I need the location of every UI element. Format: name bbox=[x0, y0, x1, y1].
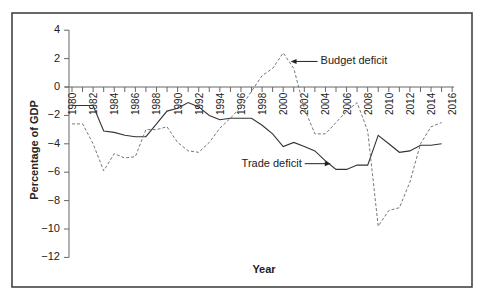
x-axis-ticks: 1980198219841986198819901992199419961998… bbox=[67, 87, 458, 115]
x-tick-label: 2014 bbox=[426, 92, 437, 115]
budget-deficit-arrowhead bbox=[291, 59, 297, 64]
x-tick-label: 1982 bbox=[88, 92, 99, 115]
x-tick-label: 2008 bbox=[363, 92, 374, 115]
axes bbox=[65, 30, 454, 257]
x-tick-label: 2012 bbox=[405, 92, 416, 115]
x-tick-label: 1996 bbox=[236, 92, 247, 115]
trade-deficit-label: Trade deficit bbox=[242, 157, 302, 169]
x-tick-label: 2000 bbox=[278, 92, 289, 115]
x-tick-label: 1994 bbox=[215, 92, 226, 115]
x-axis-title: Year bbox=[252, 263, 276, 275]
x-tick-label: 2016 bbox=[447, 92, 458, 115]
y-tick-label: −8 bbox=[47, 194, 60, 206]
x-tick-label: 1986 bbox=[130, 92, 141, 115]
x-tick-label: 1998 bbox=[257, 92, 268, 115]
x-tick-label: 2006 bbox=[342, 92, 353, 115]
chart: 420−2−4−6−8−10−12 1980198219841986198819… bbox=[0, 0, 485, 300]
x-tick-label: 2004 bbox=[320, 92, 331, 115]
x-tick-label: 1988 bbox=[151, 92, 162, 115]
y-tick-label: −2 bbox=[47, 108, 60, 120]
chart-frame bbox=[12, 13, 472, 287]
budget-deficit-label: Budget deficit bbox=[321, 54, 388, 66]
x-tick-label: 1984 bbox=[109, 92, 120, 115]
y-tick-label: −4 bbox=[47, 137, 60, 149]
y-tick-label: 2 bbox=[54, 52, 60, 64]
y-tick-label: 4 bbox=[54, 23, 60, 35]
x-tick-label: 1980 bbox=[67, 92, 78, 115]
x-tick-label: 1990 bbox=[173, 92, 184, 115]
y-axis-title: Percentage of GDP bbox=[28, 100, 40, 200]
trade-deficit-arrowhead bbox=[325, 161, 331, 166]
series-group bbox=[72, 53, 442, 226]
y-axis-ticks: 420−2−4−6−8−10−12 bbox=[41, 23, 69, 262]
x-tick-label: 2010 bbox=[384, 92, 395, 115]
y-tick-label: 0 bbox=[54, 80, 60, 92]
y-tick-label: −12 bbox=[41, 250, 60, 262]
x-tick-label: 1992 bbox=[194, 92, 205, 115]
budget-deficit-line bbox=[72, 53, 442, 226]
y-tick-label: −10 bbox=[41, 222, 60, 234]
y-tick-label: −6 bbox=[47, 165, 60, 177]
